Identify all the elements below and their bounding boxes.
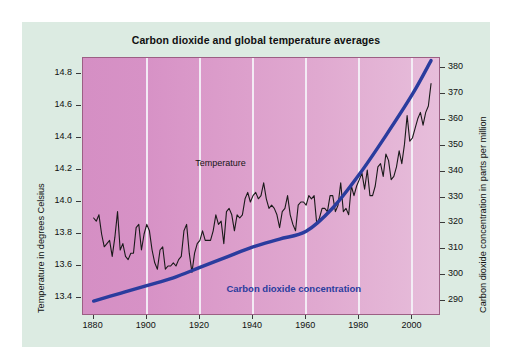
right-tick-label-290: 290 (448, 294, 463, 304)
right-tick-370 (440, 93, 445, 94)
right-tick-350 (440, 145, 445, 146)
x-tick-1880 (93, 315, 94, 319)
right-tick-320 (440, 222, 445, 223)
x-tick-2000 (411, 315, 412, 319)
right-tick-330 (440, 197, 445, 198)
right-tick-label-330: 330 (448, 191, 463, 201)
x-tick-1920 (199, 315, 200, 319)
right-tick-label-350: 350 (448, 139, 463, 149)
chart-card: Carbon dioxide and global temperature av… (22, 22, 490, 347)
left-tick-13.8 (76, 233, 81, 234)
left-tick-14.8 (76, 73, 81, 74)
left-tick-label-14.6: 14.6 (38, 99, 72, 109)
left-tick-label-14.2: 14.2 (38, 163, 72, 173)
right-tick-290 (440, 300, 445, 301)
right-tick-380 (440, 67, 445, 68)
left-tick-14.2 (76, 169, 81, 170)
x-tick-label-2000: 2000 (391, 320, 431, 330)
temperature-annotation: Temperature (195, 158, 246, 168)
right-tick-label-340: 340 (448, 165, 463, 175)
x-tick-label-1920: 1920 (179, 320, 219, 330)
right-tick-label-370: 370 (448, 87, 463, 97)
x-tick-label-1980: 1980 (338, 320, 378, 330)
x-tick-1940 (252, 315, 253, 319)
right-tick-label-300: 300 (448, 268, 463, 278)
x-tick-label-1940: 1940 (232, 320, 272, 330)
right-tick-label-310: 310 (448, 242, 463, 252)
data-series-layer (83, 58, 439, 314)
page-title: Carbon dioxide and global temperature av… (22, 34, 490, 46)
left-tick-14.0 (76, 201, 81, 202)
right-axis-title: Carbon dioxide concentration in parts pe… (478, 116, 488, 313)
x-tick-1900 (146, 315, 147, 319)
left-tick-label-14.8: 14.8 (38, 67, 72, 77)
right-tick-300 (440, 274, 445, 275)
x-tick-label-1880: 1880 (73, 320, 113, 330)
right-tick-label-380: 380 (448, 61, 463, 71)
left-tick-13.4 (76, 297, 81, 298)
left-axis-title: Temperature in degrees Celsius (36, 183, 46, 313)
left-tick-14.4 (76, 137, 81, 138)
left-tick-label-14.4: 14.4 (38, 131, 72, 141)
left-tick-13.6 (76, 265, 81, 266)
x-tick-1980 (358, 315, 359, 319)
plot-area: Temperature Carbon dioxide concentration (82, 57, 440, 315)
right-tick-360 (440, 119, 445, 120)
right-tick-label-360: 360 (448, 113, 463, 123)
left-tick-14.6 (76, 105, 81, 106)
co2-annotation: Carbon dioxide concentration (226, 283, 361, 294)
co2-curve (94, 61, 431, 301)
right-tick-340 (440, 171, 445, 172)
right-tick-label-320: 320 (448, 216, 463, 226)
x-tick-label-1900: 1900 (126, 320, 166, 330)
x-tick-1960 (305, 315, 306, 319)
x-tick-label-1960: 1960 (285, 320, 325, 330)
right-tick-310 (440, 248, 445, 249)
screenshot-root: Carbon dioxide and global temperature av… (0, 0, 505, 359)
